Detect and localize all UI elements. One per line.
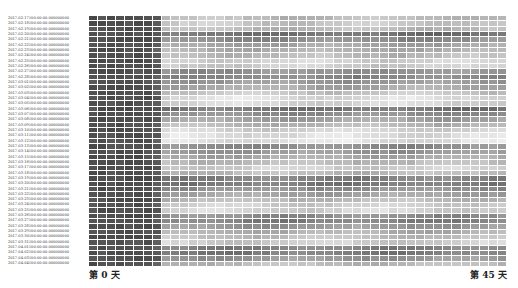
heatmap-cell <box>480 262 489 267</box>
heatmap-cell <box>207 262 216 267</box>
heatmap-cell <box>498 262 507 267</box>
heatmap-cell <box>280 262 289 267</box>
heatmap-cell <box>162 262 171 267</box>
heatmap-cell <box>189 262 198 267</box>
heatmap-cell <box>343 262 352 267</box>
heatmap-cell <box>134 262 143 267</box>
heatmap-cell <box>171 262 180 267</box>
heatmap-cell <box>180 262 189 267</box>
heatmap-cell <box>443 262 452 267</box>
x-label-first: 第 0 天 <box>89 268 120 281</box>
heatmap-grid <box>89 16 507 267</box>
heatmap-cell <box>425 262 434 267</box>
heatmap-cell <box>434 262 443 267</box>
heatmap-cell <box>362 262 371 267</box>
heatmap-cell <box>98 262 107 267</box>
heatmap-cell <box>144 262 153 267</box>
heatmap-cell <box>380 262 389 267</box>
heatmap-cell <box>462 262 471 267</box>
heatmap-cell <box>298 262 307 267</box>
heatmap-cell <box>452 262 461 267</box>
heatmap-cell <box>316 262 325 267</box>
heatmap-cell <box>89 262 98 267</box>
heatmap-cell <box>334 262 343 267</box>
heatmap-cell <box>234 262 243 267</box>
heatmap-cell <box>407 262 416 267</box>
heatmap-cell <box>271 262 280 267</box>
heatmap-cell <box>262 262 271 267</box>
heatmap-cell <box>371 262 380 267</box>
heatmap-cell <box>253 262 262 267</box>
heatmap-cell <box>107 262 116 267</box>
heatmap-cell <box>471 262 480 267</box>
heatmap-cell <box>153 262 162 267</box>
heatmap-cell <box>325 262 334 267</box>
heatmap-cell <box>116 262 125 267</box>
row-label: 2017-04-04T00:00:00.000000000 <box>8 261 88 266</box>
heatmap-cell <box>225 262 234 267</box>
heatmap-cell <box>243 262 252 267</box>
heatmap-cell <box>289 262 298 267</box>
heatmap-cell <box>198 262 207 267</box>
heatmap-cell <box>353 262 362 267</box>
x-label-last: 第 45 天 <box>470 268 507 281</box>
heatmap-cell <box>307 262 316 267</box>
y-axis-labels: 2017-02-17T00:00:00.0000000002017-02-18T… <box>8 16 88 266</box>
heatmap-cell <box>489 262 498 267</box>
heatmap-cell <box>389 262 398 267</box>
heatmap-cell <box>216 262 225 267</box>
heatmap-cell <box>398 262 407 267</box>
heatmap-cell <box>125 262 134 267</box>
heatmap-cell <box>416 262 425 267</box>
